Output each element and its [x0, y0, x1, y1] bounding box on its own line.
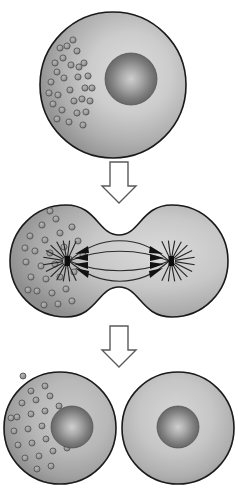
cytoplasmic-determinant-granule [76, 64, 82, 70]
cytoplasmic-determinant-granule [39, 423, 45, 429]
cytoplasmic-determinant-granule [87, 98, 93, 104]
cytoplasmic-determinant-granule [36, 453, 42, 459]
cytoplasmic-determinant-granule [27, 233, 33, 239]
cytoplasmic-determinant-granule [28, 274, 34, 280]
cytoplasmic-determinant-granule [54, 116, 60, 122]
cytoplasmic-determinant-granule [82, 85, 88, 91]
cytoplasmic-determinant-granule [33, 397, 39, 403]
cytoplasmic-determinant-granule [54, 69, 60, 75]
cytoplasmic-determinant-granule [25, 426, 31, 432]
cytoplasmic-determinant-granule [23, 259, 29, 265]
cytoplasmic-determinant-granule [14, 414, 20, 420]
cytoplasmic-determinant-granule [32, 248, 38, 254]
cell-division-svg [0, 0, 238, 489]
daughter-left-nucleus [51, 406, 93, 448]
cytoplasmic-determinant-granule [57, 230, 63, 236]
cytoplasmic-determinant-granule [85, 73, 91, 79]
cytoplasmic-determinant-granule [34, 288, 40, 294]
cytoplasmic-determinant-granule [42, 408, 48, 414]
cytoplasmic-determinant-granule [42, 237, 48, 243]
cytoplasmic-determinant-granule [43, 436, 49, 442]
cytoplasmic-determinant-granule [67, 87, 73, 93]
cytoplasmic-determinant-granule [43, 276, 49, 282]
cytoplasmic-determinant-granule [69, 224, 75, 230]
cytoplasmic-determinant-granule [74, 48, 80, 54]
cytoplasmic-determinant-granule [50, 101, 56, 107]
daughter-cell-left [4, 372, 116, 484]
right-centrosome [169, 256, 175, 266]
cytoplasmic-determinant-granule [46, 90, 52, 96]
cytoplasmic-determinant-granule [74, 110, 80, 116]
cytoplasmic-determinant-granule [11, 428, 17, 434]
cytoplasmic-determinant-granule [63, 286, 69, 292]
cytoplasmic-determinant-granule [53, 216, 59, 222]
cytoplasmic-determinant-granule [56, 403, 62, 409]
cytoplasmic-determinant-granule [70, 37, 76, 43]
cytoplasmic-determinant-granule [34, 466, 40, 472]
daughter-right-nucleus [157, 406, 199, 448]
cytoplasmic-determinant-granule [49, 290, 55, 296]
cytoplasmic-determinant-granule [80, 122, 86, 128]
cytoplasmic-determinant-granule [48, 463, 54, 469]
cytoplasmic-determinant-granule [39, 222, 45, 228]
cytoplasmic-determinant-granule [55, 92, 61, 98]
cytoplasmic-determinant-granule [64, 43, 70, 49]
daughter-cell-right [122, 372, 234, 484]
cytoplasmic-determinant-granule [20, 373, 26, 379]
stage-1-parent-cell [40, 12, 186, 158]
cytoplasmic-determinant-granule [41, 302, 47, 308]
cytoplasmic-determinant-granule [28, 411, 34, 417]
cytoplasmic-determinant-granule [66, 119, 72, 125]
cytoplasmic-determinant-granule [59, 107, 65, 113]
cytoplasmic-determinant-granule [48, 79, 54, 85]
cytoplasmic-determinant-granule [75, 74, 81, 80]
cytoplasmic-determinant-granule [28, 388, 34, 394]
cytoplasmic-determinant-granule [52, 60, 58, 66]
cytoplasmic-determinant-granule [60, 55, 66, 61]
cytoplasmic-determinant-granule [29, 440, 35, 446]
cytoplasmic-determinant-granule [15, 442, 21, 448]
cytoplasmic-determinant-granule [83, 109, 89, 115]
cytoplasmic-determinant-granule [47, 208, 53, 214]
cytoplasmic-determinant-granule [47, 393, 53, 399]
cytoplasmic-determinant-granule [69, 298, 75, 304]
parent-cell-nucleus [105, 53, 157, 105]
cytoplasmic-determinant-granule [38, 263, 44, 269]
cytoplasmic-determinant-granule [19, 400, 25, 406]
cytoplasmic-determinant-granule [61, 75, 67, 81]
cytoplasmic-determinant-granule [22, 455, 28, 461]
cytoplasmic-determinant-granule [22, 245, 28, 251]
cytoplasmic-determinant-granule [50, 448, 56, 454]
cytoplasmic-determinant-granule [42, 383, 48, 389]
cytoplasmic-determinant-granule [89, 85, 95, 91]
cytoplasmic-determinant-granule [57, 45, 63, 51]
cytoplasmic-determinant-granule [8, 415, 14, 421]
cytoplasmic-determinant-granule [68, 62, 74, 68]
cytoplasmic-determinant-granule [71, 98, 77, 104]
left-centrosome [65, 256, 71, 266]
cytoplasmic-determinant-granule [25, 287, 31, 293]
cytoplasmic-determinant-granule [55, 301, 61, 307]
cytoplasmic-determinant-granule [79, 96, 85, 102]
cell-division-diagram [0, 0, 238, 489]
